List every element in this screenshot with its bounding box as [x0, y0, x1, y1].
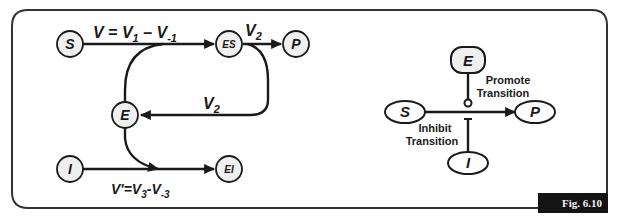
node-p-right-label: P [530, 103, 541, 120]
figure-label-badge: Fig. 6.10 [538, 193, 608, 213]
node-s-right-label: S [400, 103, 410, 120]
promote-circle-icon [465, 100, 472, 107]
inhibit-label-line2: Transition [406, 135, 459, 147]
node-es: ES [216, 31, 242, 57]
node-ei-label: EI [224, 164, 234, 175]
node-i-right: I [448, 152, 488, 174]
node-i: I [57, 156, 83, 182]
promote-label-line2: Transition [477, 87, 530, 99]
rate-label-v2-top: V2 [245, 22, 262, 42]
rate-label-vprime: V'=V3-V-3 [111, 181, 170, 200]
node-ei: EI [216, 156, 242, 182]
node-s-label: S [65, 36, 75, 52]
figure-6-10: S ES P E I EI V = V1 – V-1 V2 V [0, 0, 618, 219]
left-reaction-diagram [83, 44, 281, 169]
node-p-right: P [515, 101, 555, 123]
curve-e-to-ei [125, 128, 158, 169]
node-s: S [57, 31, 83, 57]
node-e-right-label: E [463, 52, 474, 69]
curve-e-to-es [125, 44, 163, 102]
node-s-right: S [385, 101, 425, 123]
inhibit-label-line1: Inhibit [419, 122, 452, 134]
node-e: E [112, 102, 138, 128]
rate-label-v2-mid: V2 [203, 95, 220, 115]
rate-label-v: V = V1 – V-1 [93, 24, 177, 44]
promote-label-line1: Promote [486, 74, 531, 86]
node-p-label: P [291, 36, 301, 52]
node-e-right: E [451, 47, 485, 73]
diagram-canvas: S ES P E I EI V = V1 – V-1 V2 V [0, 0, 618, 219]
node-e-label: E [120, 107, 130, 123]
node-p: P [283, 31, 309, 57]
node-es-label: ES [222, 39, 236, 50]
